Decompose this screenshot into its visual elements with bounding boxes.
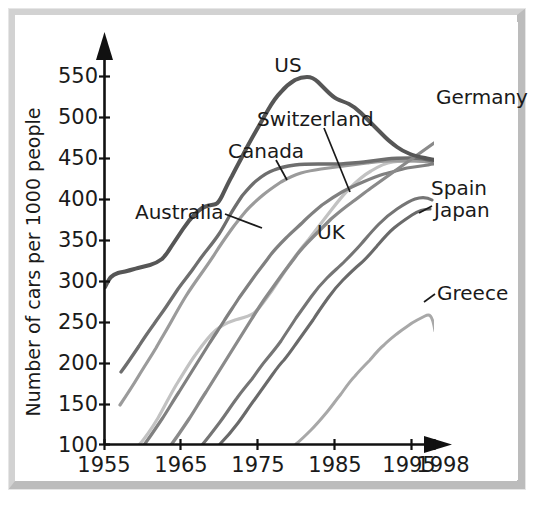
x-axis-arrowhead	[424, 436, 452, 453]
x-tick-1985: 1985	[308, 453, 361, 477]
y-tick-350: 350	[58, 228, 98, 252]
y-tick-550: 550	[58, 64, 98, 88]
leader-line-switzerland	[324, 128, 350, 192]
label-us: US	[274, 53, 301, 77]
y-tick-200: 200	[58, 351, 98, 375]
y-axis-arrowhead	[96, 32, 113, 60]
x-tick-1965: 1965	[154, 453, 207, 477]
y-tick-500: 500	[58, 105, 98, 129]
y-tick-450: 450	[58, 146, 98, 170]
axes-group	[96, 32, 452, 453]
label-uk: UK	[317, 220, 346, 244]
y-tick-250: 250	[58, 310, 98, 334]
y-axis-tick-labels: 550 500 450 400 350 300 250 200 150 100	[58, 64, 98, 457]
y-tick-300: 300	[58, 269, 98, 293]
series-curves-group	[105, 77, 435, 445]
y-tick-400: 400	[58, 187, 98, 211]
x-tick-1975: 1975	[231, 453, 284, 477]
y-tick-150: 150	[58, 392, 98, 416]
x-tick-1998: 1998	[416, 453, 469, 477]
label-greece: Greece	[437, 281, 508, 305]
series-line-japan	[220, 209, 430, 444]
label-canada: Canada	[228, 139, 304, 163]
series-line-germany	[171, 143, 434, 445]
figure-container: 550 500 450 400 350 300 250 200 150 100 …	[0, 0, 542, 508]
x-tick-1955: 1955	[77, 453, 130, 477]
label-japan: Japan	[432, 198, 490, 222]
x-axis-tick-labels: 1955 1965 1975 1985 1995 1998	[77, 453, 469, 477]
label-spain: Spain	[431, 176, 487, 200]
label-switzerland: Switzerland	[257, 107, 374, 131]
series-line-greece	[296, 315, 435, 444]
line-chart: 550 500 450 400 350 300 250 200 150 100 …	[0, 0, 542, 508]
label-germany: Germany	[436, 85, 528, 109]
leader-line-greece	[424, 294, 435, 302]
label-australia: Australia	[135, 200, 223, 224]
series-line-canada	[121, 158, 432, 372]
y-axis-title: Number of cars per 1000 people	[22, 108, 44, 417]
